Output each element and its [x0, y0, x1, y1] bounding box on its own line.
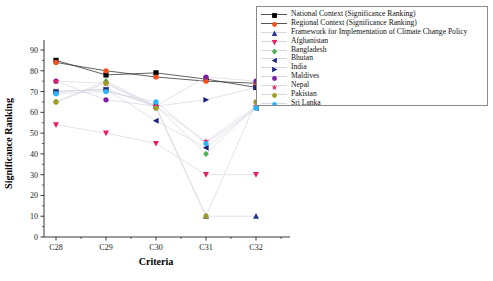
legend-key [261, 10, 287, 19]
series-nepal [53, 78, 260, 145]
x-tick-label: C32 [249, 243, 262, 252]
data-point-marker [203, 97, 209, 103]
x-tick-label: C30 [149, 243, 162, 252]
x-tick-label: C29 [99, 243, 112, 252]
data-point-marker [103, 68, 108, 73]
legend-key [261, 37, 287, 46]
data-point-marker [53, 60, 58, 65]
data-point-marker [153, 118, 159, 124]
legend-key [261, 99, 287, 106]
legend-marker-icon [270, 100, 279, 106]
legend-item-sri-lanka[interactable]: Sri Lanka [261, 99, 483, 106]
legend-key [261, 63, 287, 72]
data-point-marker [153, 106, 158, 111]
y-tick-label: 60 [30, 108, 38, 117]
legend-key [261, 54, 287, 63]
y-tick-label: 70 [30, 88, 38, 97]
data-point-marker [203, 141, 208, 146]
data-point-marker [203, 74, 208, 79]
series-line [56, 89, 256, 147]
series-national-context-significance-ranking [53, 58, 258, 90]
data-point-marker [253, 106, 258, 111]
data-point-marker [103, 97, 108, 102]
x-tick-label: C31 [199, 243, 212, 252]
y-tick-label: 10 [30, 212, 38, 221]
data-point-marker [53, 99, 58, 104]
data-point-marker [153, 74, 158, 79]
legend-marker [270, 100, 279, 106]
y-axis-title: Significance Ranking [3, 98, 14, 189]
data-point-marker [103, 81, 108, 86]
data-point-marker [153, 99, 158, 104]
x-axis-title: Criteria [139, 256, 173, 267]
y-tick-label: 90 [30, 46, 38, 55]
legend-key [261, 81, 287, 90]
legend-key [261, 72, 287, 81]
y-tick-label: 0 [34, 233, 38, 242]
y-tick-label: 50 [30, 129, 38, 138]
data-point-marker [53, 91, 58, 96]
legend-key [261, 28, 287, 37]
data-point-marker [103, 89, 108, 94]
x-tick-label: C28 [49, 243, 62, 252]
chart-legend: National Context (Significance Ranking)R… [256, 6, 488, 106]
chart-container: 0102030405060708090C28C29C30C31C32Criter… [0, 0, 493, 281]
y-tick-label: 40 [30, 150, 38, 159]
data-point-marker [153, 141, 159, 147]
y-tick-label: 80 [30, 67, 38, 76]
legend-key [261, 19, 287, 28]
y-tick-label: 30 [30, 171, 38, 180]
legend-key [261, 46, 287, 55]
y-tick-label: 20 [30, 191, 38, 200]
legend-item-label: Sri Lanka [291, 99, 321, 106]
data-point-marker [203, 214, 208, 219]
series-sri-lanka [53, 89, 258, 146]
legend-key [261, 90, 287, 99]
